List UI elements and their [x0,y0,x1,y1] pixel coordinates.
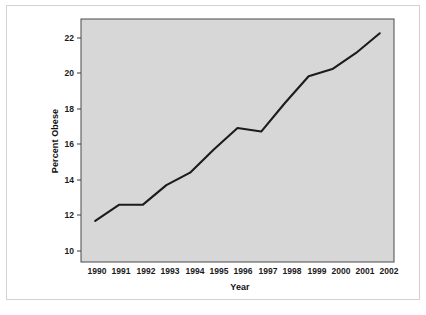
x-tick-label-2000: 2000 [332,266,351,276]
x-tick-label-1996: 1996 [234,266,253,276]
y-tick-label-20: 20 [65,68,75,78]
x-tick-label-2001: 2001 [356,266,375,276]
x-tick-label-1991: 1991 [112,266,131,276]
y-axis-tick-labels: 22 20 18 16 14 12 10 [65,33,75,256]
x-tick-label-1998: 1998 [283,266,302,276]
y-axis-ticks [77,38,81,251]
x-axis-title: Year [230,282,250,292]
x-tick-label-1997: 1997 [259,266,278,276]
x-tick-label-1992: 1992 [137,266,156,276]
x-tick-label-1994: 1994 [186,266,205,276]
x-tick-label-1995: 1995 [210,266,229,276]
line-chart: 22 20 18 16 14 12 10 Percent Obese 1990 … [0,0,426,315]
x-tick-label-2002: 2002 [380,266,399,276]
plot-area-background [81,19,394,262]
y-tick-label-10: 10 [65,246,75,256]
y-tick-label-14: 14 [65,175,75,185]
x-tick-label-1993: 1993 [161,266,180,276]
x-tick-label-1990: 1990 [88,266,107,276]
y-axis-title: Percent Obese [50,109,60,173]
y-tick-label-18: 18 [65,104,75,114]
x-tick-label-1999: 1999 [308,266,327,276]
y-tick-label-16: 16 [65,139,75,149]
y-tick-label-22: 22 [65,33,75,43]
y-tick-label-12: 12 [65,210,75,220]
figure-root: 22 20 18 16 14 12 10 Percent Obese 1990 … [0,0,426,315]
x-axis-tick-labels: 1990 1991 1992 1993 1994 1995 1996 1997 … [88,266,399,276]
